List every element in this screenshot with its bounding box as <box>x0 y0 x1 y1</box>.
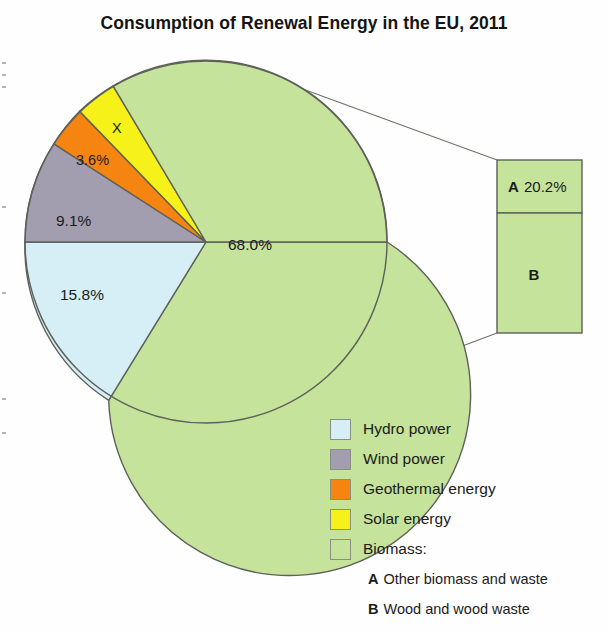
pie-label-geothermal: 3.6% <box>76 152 109 168</box>
legend-swatch-biomass <box>330 539 351 560</box>
legend-item-solar-energy[interactable]: Solar energy <box>330 504 602 534</box>
legend-label-geothermal-energy: Geothermal energy <box>363 480 496 498</box>
legend-item-geothermal-energy[interactable]: Geothermal energy <box>330 474 602 504</box>
figure-container: Consumption of Renewal Energy in the EU,… <box>0 0 608 632</box>
biomass-breakout-box: A 20.2% B <box>497 160 582 333</box>
legend-subitem-a-key: A <box>368 571 378 587</box>
breakout-label-b-key: B <box>529 266 540 283</box>
legend-subitem-b-label: Wood and wood waste <box>383 601 529 617</box>
pie-label-hydro: 15.8% <box>60 286 104 303</box>
legend-swatch-hydro-power <box>330 419 351 440</box>
legend-item-biomass[interactable]: Biomass: <box>330 534 602 564</box>
pie-label-solar-unknown: X <box>112 120 122 136</box>
legend-label-hydro-power: Hydro power <box>363 420 451 438</box>
legend-subitem-b: B Wood and wood waste <box>330 594 602 624</box>
legend-subitem-a-label: Other biomass and waste <box>383 571 547 587</box>
legend-item-wind-power[interactable]: Wind power <box>330 444 602 474</box>
legend-subitem-b-key: B <box>368 601 378 617</box>
chart-legend: Hydro power Wind power Geothermal energy… <box>330 414 602 624</box>
legend-label-wind-power: Wind power <box>363 450 445 468</box>
pie-label-biomass: 68.0% <box>228 236 272 253</box>
legend-swatch-solar-energy <box>330 509 351 530</box>
legend-subitem-a: A Other biomass and waste <box>330 564 602 594</box>
breakout-label-a-value: 20.2% <box>524 178 567 195</box>
legend-label-solar-energy: Solar energy <box>363 510 451 528</box>
pie-label-wind: 9.1% <box>56 212 92 229</box>
breakout-label-a-key: A <box>508 178 519 195</box>
legend-swatch-geothermal-energy <box>330 479 351 500</box>
legend-label-biomass: Biomass: <box>363 540 427 558</box>
legend-swatch-wind-power <box>330 449 351 470</box>
breakout-segment-b[interactable] <box>497 213 582 333</box>
legend-item-hydro-power[interactable]: Hydro power <box>330 414 602 444</box>
